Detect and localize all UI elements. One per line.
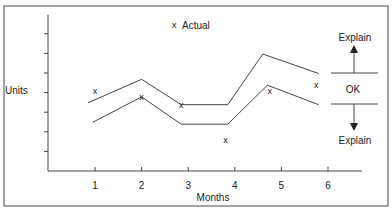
x-tick-label: 1 <box>92 180 98 191</box>
x-tick-label: 3 <box>185 180 191 191</box>
legend-label-actual: Actual <box>182 20 210 31</box>
x-tick-label: 6 <box>325 180 331 191</box>
upper-limit-line <box>88 54 319 105</box>
actual-point-x-marker-icon: x <box>268 86 273 96</box>
arrow-up-icon <box>350 45 358 53</box>
x-tick-label: 5 <box>279 180 285 191</box>
legend-x-marker-icon: x <box>172 20 177 30</box>
x-tick-label: 2 <box>139 180 145 191</box>
actual-point-x-marker-icon: x <box>93 86 98 96</box>
actual-point-x-marker-icon: x <box>314 80 319 90</box>
x-tick-label: 4 <box>232 180 238 191</box>
y-axis-ticks <box>44 34 48 152</box>
legend: x Actual <box>172 20 210 31</box>
actual-point-x-marker-icon: x <box>179 100 184 110</box>
arrow-down-icon <box>350 123 358 131</box>
chart-svg: 123456 Units Months x Actual xxxxxx OK E… <box>0 0 392 212</box>
figure-frame <box>4 6 388 206</box>
control-chart-figure: 123456 Units Months x Actual xxxxxx OK E… <box>0 0 392 212</box>
x-axis-label: Months <box>197 192 230 203</box>
actual-data-points: xxxxxx <box>93 80 319 145</box>
actual-point-x-marker-icon: x <box>139 92 144 102</box>
actual-point-x-marker-icon: x <box>223 135 228 145</box>
ok-label: OK <box>346 84 361 95</box>
tolerance-key: OK Explain Explain <box>331 32 378 146</box>
explain-upper-label: Explain <box>339 32 372 43</box>
explain-lower-label: Explain <box>339 135 372 146</box>
y-axis-label: Units <box>5 85 28 96</box>
